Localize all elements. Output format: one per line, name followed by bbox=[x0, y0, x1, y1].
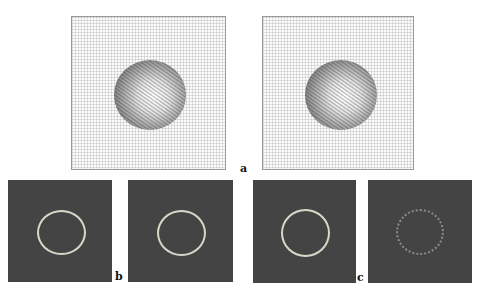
circle-edge bbox=[157, 210, 206, 256]
figure-panel-b-right bbox=[128, 180, 233, 282]
figure-panel-a-left bbox=[71, 16, 226, 170]
figure-panel-c-left bbox=[253, 180, 356, 283]
figure-panel-c-right bbox=[368, 180, 472, 283]
sphere-vector-field bbox=[305, 60, 377, 130]
panel-label-a: a bbox=[240, 163, 247, 174]
circle-edge bbox=[281, 209, 330, 257]
sphere-vector-field bbox=[114, 60, 186, 130]
circle-edge bbox=[37, 210, 86, 255]
circle-edge-faint bbox=[396, 209, 444, 255]
panel-label-b: b bbox=[115, 271, 123, 282]
figure-panel-a-right bbox=[262, 16, 414, 170]
panel-label-c: c bbox=[357, 272, 364, 283]
figure-panel-b-left bbox=[8, 180, 112, 282]
